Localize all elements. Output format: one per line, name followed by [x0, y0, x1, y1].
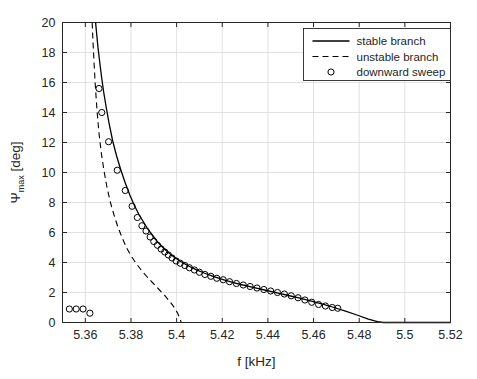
x-tick-label: 5.46 [301, 328, 325, 342]
y-tick-label: 12 [42, 136, 56, 150]
figure-container: 5.365.385.45.425.445.465.485.55.52024681… [0, 0, 477, 379]
y-tick-label: 2 [49, 286, 56, 300]
y-axis-title: Ψmax [deg] [8, 141, 26, 203]
y-tick-label: 14 [42, 106, 56, 120]
y-tick-label: 8 [49, 196, 56, 210]
legend-label-stable-branch: stable branch [357, 35, 426, 47]
x-tick-label: 5.4 [168, 328, 185, 342]
y-tick-label: 4 [49, 256, 56, 270]
chart-canvas: 5.365.385.45.425.445.465.485.55.52024681… [0, 0, 477, 379]
x-axis-title: f [kHz] [237, 354, 275, 369]
x-tick-label: 5.52 [438, 328, 462, 342]
x-tick-label: 5.48 [347, 328, 371, 342]
x-tick-label: 5.5 [396, 328, 413, 342]
y-tick-label: 10 [42, 166, 56, 180]
x-tick-label: 5.38 [119, 328, 143, 342]
x-tick-label: 5.36 [73, 328, 97, 342]
marker-series-downward-sweep [66, 85, 341, 316]
y-tick-label: 20 [42, 16, 56, 30]
legend-label-downward-sweep: downward sweep [357, 66, 446, 78]
legend-label-unstable-branch: unstable branch [357, 51, 439, 63]
x-tick-label: 5.44 [256, 328, 280, 342]
y-tick-label: 16 [42, 76, 56, 90]
y-tick-label: 0 [49, 316, 56, 330]
x-tick-label: 5.42 [210, 328, 234, 342]
legend: stable branchunstable branchdownward swe… [304, 29, 451, 81]
y-tick-label: 6 [49, 226, 56, 240]
y-tick-label: 18 [42, 46, 56, 60]
